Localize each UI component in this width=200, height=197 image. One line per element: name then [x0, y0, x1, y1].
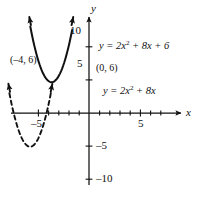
y-tick-label-10: 10 — [70, 25, 81, 36]
curve-solid-parabola — [29, 17, 73, 82]
y-tick-label-5: 5 — [77, 58, 83, 69]
equation-solid-prefix: y = 2x — [99, 40, 126, 51]
equation-label-solid: y = 2x2 + 8x + 6 — [99, 41, 169, 52]
point-label-neg4-6: (–4, 6) — [10, 55, 37, 65]
x-axis — [11, 109, 181, 116]
equation-label-dashed: y = 2x2 + 8x — [103, 86, 156, 97]
x-axis-label: x — [186, 107, 191, 118]
equation-solid-suffix: + 8x + 6 — [129, 40, 169, 51]
equation-dashed-suffix: + 8x — [133, 85, 155, 96]
y-tick-label-neg5: –5 — [96, 140, 107, 151]
x-tick-label-5: 5 — [138, 118, 144, 129]
y-axis — [86, 17, 93, 185]
x-tick-label-neg5: –5 — [31, 118, 42, 129]
graph-figure: x y –5 5 10 5 –5 –10 (–4, 6) (0, 6) y = … — [0, 0, 200, 197]
y-tick-label-neg10: –10 — [96, 173, 113, 184]
equation-dashed-prefix: y = 2x — [103, 85, 130, 96]
point-label-0-6: (0, 6) — [96, 63, 118, 73]
coordinate-plane-svg — [0, 0, 200, 197]
y-axis-label: y — [91, 3, 96, 14]
curve-dashed-parabola — [8, 84, 52, 147]
